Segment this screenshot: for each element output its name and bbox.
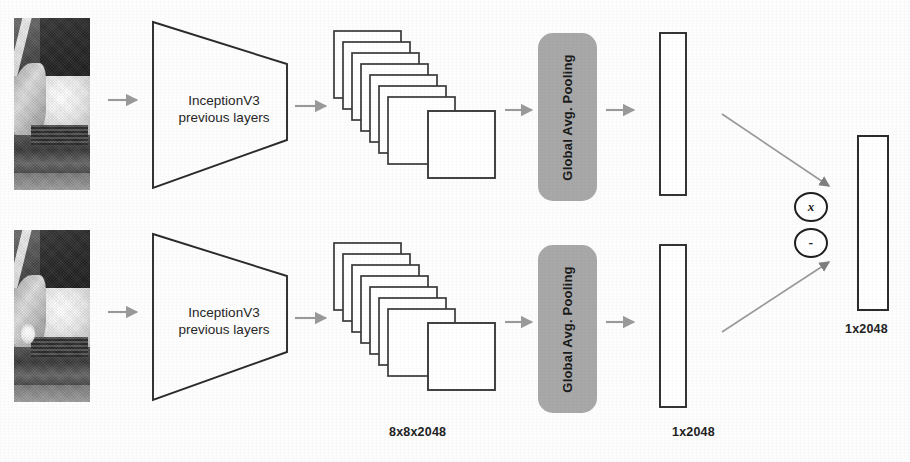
architecture-diagram: InceptionV3 previous layers InceptionV3 … bbox=[0, 0, 910, 462]
feature-map-square bbox=[428, 323, 495, 390]
backbone-label-top: InceptionV3 previous layers bbox=[165, 92, 283, 126]
output-vector-bar bbox=[858, 136, 888, 310]
embedding-vector-bar-top bbox=[660, 33, 686, 195]
subtract-operator-symbol: - bbox=[795, 235, 827, 251]
feature-map-stack-bottom bbox=[334, 243, 495, 390]
backbone-label-line2-bottom: previous layers bbox=[165, 321, 283, 338]
backbone-label-line1-bottom: InceptionV3 bbox=[165, 304, 283, 321]
diagram-vector-layer bbox=[0, 0, 910, 462]
feature-map-dims-label: 8x8x2048 bbox=[389, 425, 446, 439]
output-dims-label: 1x2048 bbox=[845, 322, 888, 336]
embedding-vector-bar-bottom bbox=[660, 245, 686, 407]
multiply-operator-symbol: x bbox=[795, 199, 827, 215]
backbone-label-line1-top: InceptionV3 bbox=[165, 92, 283, 109]
pooling-label-wrap-bottom: Global Avg. Pooling bbox=[538, 245, 597, 413]
feature-map-square bbox=[428, 111, 495, 178]
pooling-label-top: Global Avg. Pooling bbox=[560, 54, 575, 180]
pooling-label-wrap-top: Global Avg. Pooling bbox=[538, 33, 597, 201]
embedding-dims-label: 1x2048 bbox=[672, 425, 715, 439]
merge-line-from-bottom-branch bbox=[722, 262, 829, 332]
merge-line-from-top-branch bbox=[722, 114, 829, 186]
backbone-label-line2-top: previous layers bbox=[165, 109, 283, 126]
feature-map-stack-top bbox=[334, 31, 495, 178]
backbone-label-bottom: InceptionV3 previous layers bbox=[165, 304, 283, 338]
pooling-label-bottom: Global Avg. Pooling bbox=[560, 266, 575, 392]
